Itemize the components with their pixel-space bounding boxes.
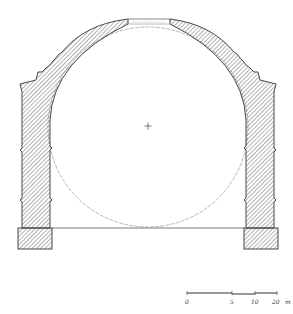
right-wall: [170, 19, 276, 228]
scale-label-10: 10: [251, 298, 259, 305]
left-wall: [20, 19, 128, 228]
right-base: [244, 228, 278, 249]
scale-bar: 0 5 10 20 m: [185, 291, 291, 305]
left-base: [18, 228, 52, 249]
oculus: [128, 19, 170, 24]
scale-unit: m: [285, 298, 291, 305]
section-drawing: 0 5 10 20 m: [0, 0, 293, 314]
scale-label-5: 5: [230, 298, 234, 305]
scale-label-0: 0: [185, 298, 189, 305]
scale-label-20: 20: [271, 298, 280, 305]
center-cross-icon: [145, 123, 152, 130]
